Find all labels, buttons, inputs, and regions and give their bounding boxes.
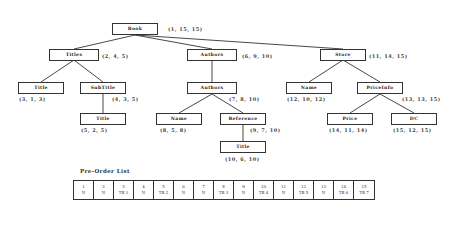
- triple-price: (14, 11, 14): [329, 127, 368, 133]
- preorder-cell: 2N: [94, 181, 114, 199]
- triple-titles: (2, 4, 5): [102, 53, 129, 59]
- node-title-1: Title: [18, 82, 64, 94]
- node-title-2: Title: [80, 113, 126, 125]
- node-book: Book: [112, 23, 158, 35]
- preorder-cell: 1N: [74, 181, 94, 199]
- node-reference: Reference: [220, 113, 266, 125]
- node-subtitle: SubTitle: [80, 82, 126, 94]
- triple-title-1: (3, 1, 3): [19, 96, 46, 102]
- node-titles: Titles: [49, 49, 99, 61]
- triple-authors-top: (6, 9, 10): [242, 53, 273, 59]
- preorder-cell: 4N: [134, 181, 154, 199]
- node-store: Store: [320, 49, 366, 61]
- triple-reference: (9, 7, 10): [250, 127, 281, 133]
- triple-book: (1, 15, 15): [168, 26, 203, 32]
- node-author-name: Name: [156, 113, 202, 125]
- preorder-cell: 7N: [194, 181, 214, 199]
- triple-title-3: (10, 6, 10): [225, 156, 260, 162]
- preorder-cell: 13N: [314, 181, 334, 199]
- preorder-cell: 15TB 7: [354, 181, 374, 199]
- preorder-cell: 9N: [234, 181, 254, 199]
- node-dc: DC: [391, 113, 437, 125]
- node-price: Price: [327, 113, 373, 125]
- triple-author-name: (8, 5, 8): [160, 127, 187, 133]
- preorder-cell: 11N: [274, 181, 294, 199]
- preorder-cell: 3TB 1: [114, 181, 134, 199]
- triple-subtitle: (4, 3, 5): [112, 96, 139, 102]
- node-title-3: Title: [220, 141, 266, 153]
- node-authors-top: Authors: [187, 49, 237, 61]
- preorder-cell: 10TB 4: [254, 181, 274, 199]
- preorder-title: Pre-Order List: [80, 168, 130, 174]
- preorder-list: 1N 2N 3TB 1 4N 5TB 2 6N 7N 8TB 3 9N 10TB…: [73, 180, 375, 200]
- preorder-cell: 8TB 3: [214, 181, 234, 199]
- node-authors-inner: Authors: [187, 82, 237, 94]
- triple-dc: (15, 12, 15): [393, 127, 432, 133]
- triple-authors-inner: (7, 8, 10): [229, 96, 260, 102]
- node-store-name: Name: [286, 82, 332, 94]
- preorder-cell: 6N: [174, 181, 194, 199]
- preorder-cell: 5TB 2: [154, 181, 174, 199]
- preorder-cell: 14TB 6: [334, 181, 354, 199]
- triple-title-2: (5, 2, 5): [81, 127, 108, 133]
- preorder-cell: 12TB 5: [294, 181, 314, 199]
- triple-store-name: (12, 10, 12): [287, 96, 326, 102]
- triple-store: (11, 14, 15): [369, 53, 408, 59]
- node-priceinfo: PriceInfo: [357, 82, 403, 94]
- triple-priceinfo: (13, 13, 15): [402, 96, 441, 102]
